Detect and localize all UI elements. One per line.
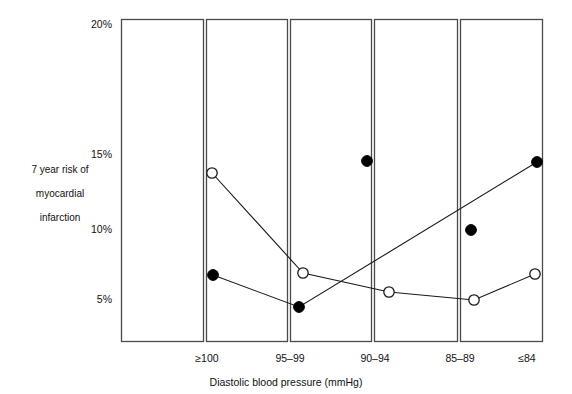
data-point-filled-1 <box>208 270 219 281</box>
panel-frame-5 <box>461 20 543 342</box>
data-point-filled-4 <box>466 225 477 236</box>
data-point-open-3 <box>384 287 394 297</box>
data-point-filled-5 <box>532 157 543 168</box>
open-series-polyline <box>212 173 535 300</box>
data-point-open-1 <box>207 168 217 178</box>
panel-frame-1 <box>122 20 204 342</box>
data-point-open-5 <box>530 269 540 279</box>
data-point-open-4 <box>469 295 479 305</box>
data-point-filled-2 <box>294 302 305 313</box>
open-circle-markers <box>207 168 540 305</box>
series-line-open <box>212 173 535 300</box>
data-point-filled-3 <box>362 156 373 167</box>
chart-figure: 7 year risk of myocardial infarction 20%… <box>0 0 572 394</box>
panel-frames <box>122 20 543 342</box>
panel-frame-3 <box>291 20 372 342</box>
plot-svg <box>0 0 572 394</box>
data-point-open-2 <box>298 268 308 278</box>
